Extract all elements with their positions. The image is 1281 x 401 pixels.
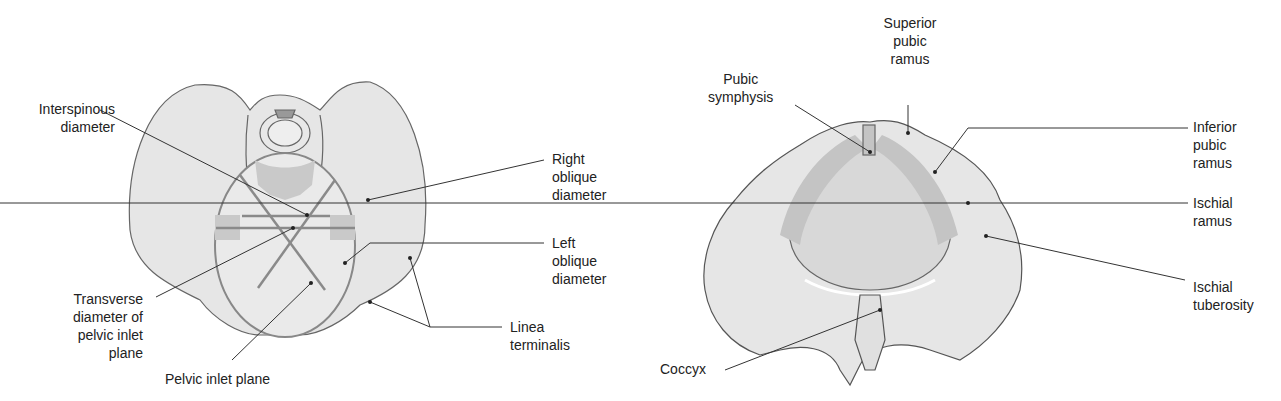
label-left-oblique-diameter: Left oblique diameter	[552, 234, 606, 288]
label-superior-pubic-ramus: Superior pubic ramus	[884, 14, 937, 68]
pelvis-diagram	[0, 0, 1281, 401]
label-right-oblique-diameter: Right oblique diameter	[552, 150, 606, 204]
label-pelvic-inlet-plane: Pelvic inlet plane	[165, 370, 270, 388]
label-ischial-ramus: Ischial ramus	[1193, 194, 1233, 230]
label-pubic-symphysis: Pubic symphysis	[708, 70, 773, 106]
right-pelvis	[704, 121, 1022, 385]
label-linea-terminalis: Linea terminalis	[510, 318, 570, 354]
label-inferior-pubic-ramus: Inferior pubic ramus	[1193, 118, 1237, 172]
label-ischial-tuberosity: Ischial tuberosity	[1193, 278, 1254, 314]
label-coccyx: Coccyx	[660, 360, 706, 378]
left-pelvis	[129, 82, 425, 337]
label-interspinous-diameter: Interspinous diameter	[12, 100, 115, 136]
label-transverse-diameter: Transverse diameter of pelvic inlet plan…	[20, 290, 143, 362]
